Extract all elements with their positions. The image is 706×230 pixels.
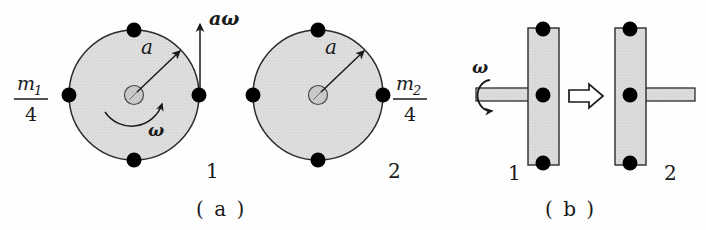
disk-2-radius-label: a [325,35,337,59]
bar-2-number-label: 2 [664,161,677,185]
bar-2-point-mass-bottom [623,156,638,171]
disk-1-omega-label: ω [148,120,164,140]
disk-1-mass-fraction: m 1 4 [14,72,48,125]
disk-2-number-label: 2 [388,159,401,183]
bar-2-point-mass-center [623,88,638,103]
disk-1-group: a ω aω m 1 4 1 [14,7,239,183]
bar-1-omega-label: ω [472,57,488,77]
bar-2-point-mass-top [623,22,638,37]
disk-1-radius-label: a [141,35,153,59]
disk-2-mass-subscript: 2 [412,83,421,98]
physics-figure: a ω aω m 1 4 1 [0,0,706,230]
bar-1-point-mass-top [536,22,551,37]
disk-1-tangential-velocity-label: aω [209,7,239,29]
disk-1-point-mass-left [62,88,77,103]
bar-1-axle-rod [476,88,531,101]
disk-2-group: a m 2 4 2 [246,23,428,184]
bar-1-number-label: 1 [508,161,521,185]
disk-1-mass-subscript: 1 [34,83,42,98]
disk-1-point-mass-top [127,23,142,38]
bar-1-group: ω 1 [472,22,559,186]
bar-2-axle-rod [642,88,695,101]
disk-2-point-mass-top [311,23,326,38]
disk-2-point-mass-right [376,88,391,103]
panel-a-caption: ( a ) [196,197,246,221]
bar-2-group: 2 [615,22,695,186]
transition-block-arrow-icon [569,84,603,108]
disk-1-mass-denominator: 4 [25,103,37,125]
disk-2-mass-denominator: 4 [404,103,416,125]
figure-canvas: a ω aω m 1 4 1 [0,0,706,230]
bar-1-point-mass-bottom [536,156,551,171]
disk-2-mass-fraction: m 2 4 [393,72,427,125]
disk-1-point-mass-right [192,88,207,103]
disk-2-point-mass-left [246,88,261,103]
disk-1-point-mass-bottom [127,153,142,168]
disk-2-point-mass-bottom [311,153,326,168]
disk-1-mass-numerator: m [17,72,35,94]
disk-2-mass-numerator: m [396,72,414,94]
panel-b-caption: ( b ) [545,197,596,221]
bar-1-point-mass-center [536,88,551,103]
disk-1-number-label: 1 [206,159,219,183]
